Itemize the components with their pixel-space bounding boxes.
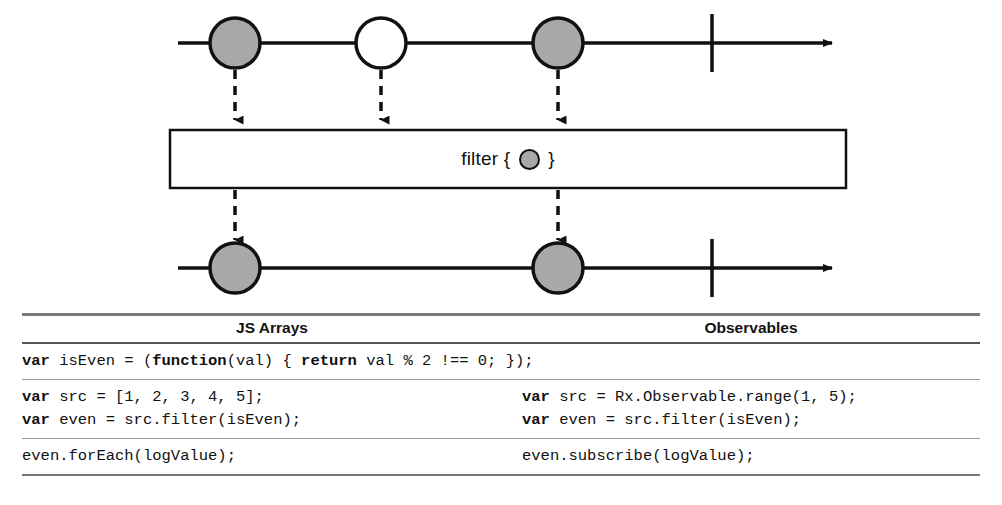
code-text: src = [1, 2, 3, 4, 5]; [50,388,264,406]
code-keyword: var [22,411,50,429]
table-row: var src = [1, 2, 3, 4, 5];var even = src… [22,380,980,439]
table-body: var isEven = (function(val) { return val… [22,343,980,475]
consume-row-rx-cell: even.subscribe(logValue); [522,439,980,476]
source-marble-2 [356,18,406,68]
filter-operator-label: filter { } [170,130,846,188]
source-observable-timeline [178,14,832,72]
marble-diagram: filter { } [0,0,1002,305]
code-line: var isEven = (function(val) { return val… [22,352,534,370]
code-comparison-table: JS Arrays Observables var isEven = (func… [22,313,980,476]
code-text: even.forEach(logValue); [22,447,236,465]
code-keyword: var [522,411,550,429]
result-marble-2 [533,243,583,293]
source-marble-3 [533,18,583,68]
code-text: even.subscribe(logValue); [522,447,755,465]
source-and-filter-row-rx-cell: var src = Rx.Observable.range(1, 5);var … [522,380,980,439]
operator-to-result-arrows [235,190,558,240]
code-text: even = src.filter(isEven); [550,411,801,429]
table-row: var isEven = (function(val) { return val… [22,343,980,380]
filter-label-suffix: } [543,148,555,170]
gray-circle-icon [519,149,540,170]
code-keyword: var [522,388,550,406]
consume-row-js-cell: even.forEach(logValue); [22,439,522,476]
code-text: val % 2 !== 0; }); [357,352,534,370]
code-keyword: return [301,352,357,370]
code-text: (val) { [227,352,301,370]
source-to-operator-arrows [235,70,558,120]
code-keyword: function [152,352,226,370]
source-marble-1 [210,18,260,68]
table-header-row: JS Arrays Observables [22,315,980,344]
code-line: even.forEach(logValue); [22,447,236,465]
shared-predicate-row: var isEven = (function(val) { return val… [22,343,980,380]
code-text: src = Rx.Observable.range(1, 5); [550,388,857,406]
code-keyword: var [22,352,50,370]
table-row: even.forEach(logValue);even.subscribe(lo… [22,439,980,476]
result-observable-timeline [178,239,832,297]
code-line: var src = [1, 2, 3, 4, 5]; [22,388,264,406]
code-line: even.subscribe(logValue); [522,447,755,465]
code-line: var even = src.filter(isEven); [22,411,301,429]
code-text: isEven = ( [50,352,152,370]
code-line: var even = src.filter(isEven); [522,411,801,429]
source-and-filter-row-js-cell: var src = [1, 2, 3, 4, 5];var even = src… [22,380,522,439]
result-marble-1 [210,243,260,293]
code-line: var src = Rx.Observable.range(1, 5); [522,388,857,406]
column-header-js-arrays: JS Arrays [22,315,522,344]
code-text: even = src.filter(isEven); [50,411,301,429]
filter-label-prefix: filter { [461,148,516,170]
column-header-observables: Observables [522,315,980,344]
code-keyword: var [22,388,50,406]
